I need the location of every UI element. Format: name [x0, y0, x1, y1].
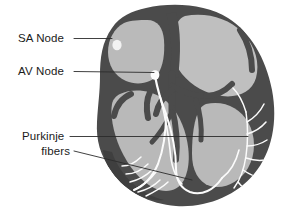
sa-node-marker	[112, 40, 121, 50]
label-purkinje-fibers-line2: fibers	[41, 145, 70, 157]
annotation-labels: SA Node AV Node Purkinje fibers	[18, 32, 70, 157]
label-purkinje-fibers-line1: Purkinje	[22, 130, 64, 142]
heart-diagram-canvas: SA Node AV Node Purkinje fibers	[0, 0, 282, 214]
av-node-marker	[151, 70, 160, 80]
label-sa-node: SA Node	[18, 32, 64, 44]
cardiac-conduction-diagram: SA Node AV Node Purkinje fibers	[0, 0, 282, 214]
label-av-node: AV Node	[18, 65, 64, 77]
heart-silhouette	[97, 5, 274, 206]
